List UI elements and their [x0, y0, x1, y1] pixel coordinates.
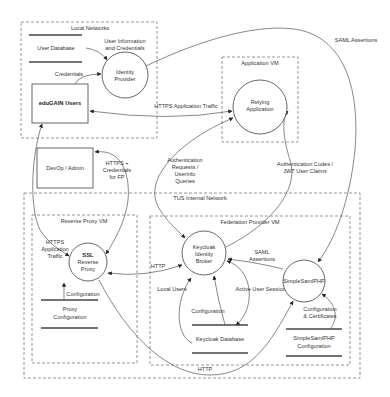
svg-text:Application: Application — [41, 246, 68, 252]
flow-https-app-traffic — [90, 111, 232, 117]
svg-text:HTTPS: HTTPS — [46, 239, 65, 245]
svg-text:SimpleSamlPHP: SimpleSamlPHP — [293, 335, 335, 341]
svg-text:Keycloak Database: Keycloak Database — [196, 336, 244, 342]
svg-text:Credentials: Credentials — [103, 167, 131, 173]
svg-text:Traffic: Traffic — [47, 253, 62, 259]
svg-text:Configuration: Configuration — [297, 343, 330, 349]
svg-text:Authentication Codes /: Authentication Codes / — [277, 161, 334, 167]
flow-http-bottom — [99, 280, 293, 375]
svg-text:SimpleSamlPHP: SimpleSamlPHP — [283, 278, 325, 284]
svg-text:Assertions: Assertions — [249, 256, 275, 262]
process-identity-provider: Identity Provider — [102, 52, 148, 98]
svg-text:HTTPS +: HTTPS + — [105, 160, 128, 166]
datastore-simplesamlphp-configuration: SimpleSamlPHP Configuration — [286, 329, 342, 356]
svg-text:Userinfo: Userinfo — [175, 171, 196, 177]
svg-text:HTTP: HTTP — [151, 263, 166, 269]
svg-text:Configuration: Configuration — [66, 291, 99, 297]
svg-text:Configuration: Configuration — [53, 314, 86, 320]
svg-text:SAML Assertions: SAML Assertions — [335, 37, 378, 43]
svg-text:and Credentials: and Credentials — [105, 45, 144, 51]
process-simplesamlphp: SimpleSamlPHP — [283, 260, 325, 302]
datastore-proxy-configuration: Proxy Configuration — [41, 300, 98, 328]
svg-text:Relying: Relying — [251, 99, 270, 105]
datastore-user-database: User Database — [29, 35, 82, 62]
svg-text:SSL: SSL — [82, 252, 94, 258]
process-ssl-reverse-proxy: SSL Reverse Proxy — [69, 243, 107, 281]
datastore-keycloak-database: Keycloak Database — [192, 325, 248, 353]
svg-text:SAML: SAML — [254, 249, 269, 255]
svg-text:Broker: Broker — [196, 258, 213, 264]
entity-edugain-users: eduGAIN Users — [32, 84, 88, 123]
boundary-reverse-proxy-vm: Reverse Proxy VM — [32, 215, 137, 363]
boundary-label: Application VM — [241, 60, 279, 66]
svg-text:HTTPS Application Traffic: HTTPS Application Traffic — [154, 103, 218, 109]
svg-text:Proxy: Proxy — [63, 306, 78, 312]
boundary-label: Local Networks — [71, 25, 109, 31]
svg-text:Reverse: Reverse — [78, 259, 99, 265]
svg-text:Identity: Identity — [116, 69, 134, 75]
boundary-label: Federation Provider VM — [220, 219, 279, 225]
svg-text:Keycloak: Keycloak — [193, 244, 216, 250]
svg-text:Requests /: Requests / — [172, 164, 199, 170]
svg-text:Local Users: Local Users — [157, 286, 187, 292]
svg-text:Proxy: Proxy — [81, 266, 96, 272]
flow-http-proxy-keycloak — [108, 265, 182, 274]
svg-text:Queries: Queries — [175, 178, 195, 184]
svg-text:DevOp / Admin: DevOp / Admin — [46, 165, 84, 171]
svg-text:Application: Application — [246, 106, 273, 112]
flow-https-app-traffic-proxy — [33, 124, 69, 256]
svg-text:Authentication: Authentication — [167, 157, 202, 163]
svg-text:Configuration: Configuration — [303, 306, 336, 312]
process-relying-application: Relying Application — [233, 80, 287, 134]
svg-text:& Certificates: & Certificates — [303, 313, 336, 319]
boundary-label: TUS Internal Network — [173, 195, 227, 201]
svg-text:Provider: Provider — [115, 76, 136, 82]
data-flow-diagram: Local Networks Application VM TUS Intern… — [0, 0, 390, 397]
svg-text:User Information: User Information — [104, 38, 145, 44]
process-keycloak-identity-broker: Keycloak Identity Broker — [182, 231, 226, 275]
entity-devop-admin: DevOp / Admin — [37, 148, 93, 188]
svg-text:HTTP: HTTP — [198, 366, 213, 372]
svg-text:JWT User Claims: JWT User Claims — [283, 168, 327, 174]
svg-text:Configuration: Configuration — [191, 308, 224, 314]
svg-text:Active User Sessions: Active User Sessions — [236, 286, 289, 292]
svg-text:eduGAIN Users: eduGAIN Users — [39, 100, 82, 106]
svg-text:Credentials: Credentials — [55, 71, 83, 77]
flow-active-user-sessions — [227, 261, 249, 325]
boundary-label: Reverse Proxy VM — [61, 218, 108, 224]
flow-user-info — [86, 48, 107, 60]
svg-text:for FP: for FP — [109, 174, 124, 180]
svg-text:User Database: User Database — [37, 45, 74, 51]
svg-text:Identity: Identity — [195, 251, 213, 257]
flow-keycloak-configuration — [214, 276, 225, 325]
